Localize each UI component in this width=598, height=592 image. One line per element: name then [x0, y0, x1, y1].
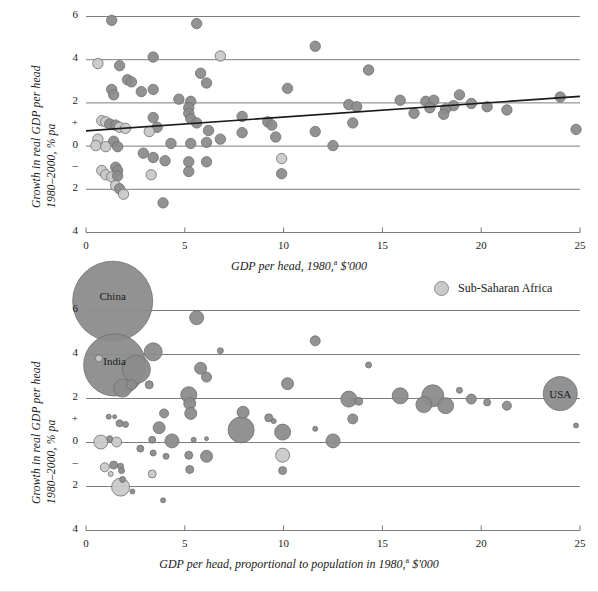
- x-tick-label: 10: [269, 537, 299, 549]
- bubble-marker: [276, 448, 290, 462]
- bubble-marker: [191, 437, 196, 442]
- chart-bottom-bubble: 642+0–240510152025GDP per head, proporti…: [0, 0, 598, 592]
- x-axis-title-text: GDP per head, proportional to population…: [159, 557, 405, 571]
- x-tick-label: 25: [565, 537, 595, 549]
- y-axis-title-line2: 1980–2000, % pa: [45, 420, 57, 504]
- bubble-marker: [190, 311, 204, 325]
- bubble-marker: [275, 424, 291, 440]
- bubble-marker: [502, 401, 511, 410]
- x-axis-title: GDP per head, proportional to population…: [0, 556, 598, 572]
- bubble-marker: [110, 461, 118, 469]
- bubble-marker: [100, 463, 109, 472]
- bubble-marker: [160, 409, 169, 418]
- bubble-marker: [279, 467, 287, 475]
- bubble-marker: [126, 380, 136, 390]
- bubble-marker: [201, 450, 213, 462]
- bubble-marker: [205, 437, 209, 441]
- bubble-marker: [228, 417, 254, 443]
- bubble-marker: [116, 420, 123, 427]
- bubble-marker: [416, 397, 432, 413]
- y-tick-label: 2: [62, 478, 78, 490]
- bubble-marker: [108, 471, 113, 476]
- x-axis-title-unit: $'000: [409, 557, 439, 571]
- bubble-marker: [107, 436, 113, 442]
- bubble-marker: [185, 407, 197, 419]
- bubble-marker: [148, 470, 156, 478]
- bubble-marker: [161, 498, 166, 503]
- bubble-marker: [112, 437, 122, 447]
- y-tick-label: 4: [62, 522, 78, 534]
- bubble-marker: [310, 336, 320, 346]
- bubble-marker: [438, 398, 454, 414]
- x-tick-label: 0: [71, 537, 101, 549]
- bubble-marker: [348, 414, 358, 424]
- bubble-marker: [341, 391, 357, 407]
- bubble-marker: [73, 261, 153, 341]
- bubble-marker: [122, 355, 150, 383]
- bubble-marker: [326, 434, 340, 448]
- bubble-marker: [145, 381, 153, 389]
- bubble-marker: [282, 378, 294, 390]
- bubble-marker: [466, 394, 476, 404]
- y-tick-label: 4: [62, 346, 78, 358]
- y-tick-label: 0: [62, 434, 78, 446]
- bubble-marker: [149, 436, 156, 443]
- bubble-marker: [150, 450, 156, 456]
- bubble-marker: [185, 451, 193, 459]
- bubble-marker: [217, 348, 223, 354]
- bubble-marker: [119, 468, 125, 474]
- bubble-marker: [137, 445, 144, 452]
- bubble-marker: [130, 489, 135, 494]
- bubble-marker: [392, 388, 408, 404]
- bubble-marker: [484, 399, 491, 406]
- x-tick-label: 20: [466, 537, 496, 549]
- x-tick-label: 5: [170, 537, 200, 549]
- bubble-marker: [366, 362, 372, 368]
- bubble-marker: [120, 476, 126, 482]
- bubble-marker: [543, 377, 577, 411]
- bubble-marker: [144, 343, 162, 361]
- bubble-marker: [313, 426, 318, 431]
- y-tick-label: +: [62, 412, 78, 424]
- y-tick-label: –: [62, 456, 78, 468]
- bubble-marker: [355, 397, 363, 405]
- bubble-marker: [574, 423, 579, 428]
- bubble-marker: [186, 466, 194, 474]
- bubble-marker: [165, 434, 179, 448]
- bubble-plot-area: [0, 0, 598, 592]
- bubble-marker: [237, 406, 249, 418]
- bubble-marker: [95, 355, 102, 362]
- bubble-marker: [271, 419, 276, 424]
- bubble-marker: [106, 414, 111, 419]
- bubble-marker: [202, 372, 212, 382]
- bubble-marker: [153, 422, 165, 434]
- bubble-marker: [456, 387, 462, 393]
- y-tick-label: 6: [62, 302, 78, 314]
- bubble-marker: [123, 421, 129, 427]
- bubble-marker: [94, 435, 108, 449]
- x-tick-label: 15: [367, 537, 397, 549]
- bubble-marker: [163, 453, 169, 459]
- y-tick-label: 2: [62, 390, 78, 402]
- y-axis-title-line1: Growth in real GDP per head: [30, 361, 42, 504]
- bubble-marker: [113, 415, 117, 419]
